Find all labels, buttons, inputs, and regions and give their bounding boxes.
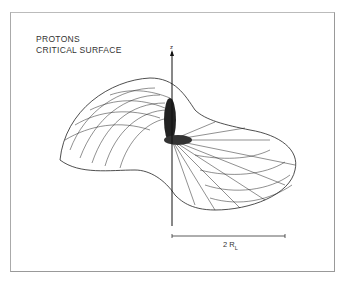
scale-bar-subscript: L [235,245,238,251]
scale-bar-text: 2 R [223,240,235,249]
critical-surface-wireframe [0,0,343,281]
scale-bar-label: 2 RL [223,240,238,251]
scale-bar [172,234,285,238]
z-axis-arrow-icon [170,50,174,56]
